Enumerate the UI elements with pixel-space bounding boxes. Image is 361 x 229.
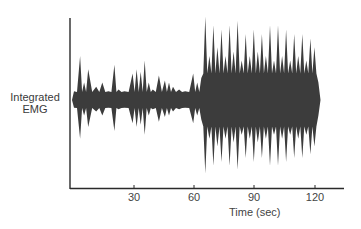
y-axis-label-line1: Integrated bbox=[2, 91, 68, 103]
x-tick-90: 90 bbox=[248, 191, 260, 203]
y-axis-label-line2: EMG bbox=[2, 103, 68, 115]
y-axis-label: Integrated EMG bbox=[2, 91, 68, 115]
tick-marks bbox=[134, 185, 315, 188]
x-tick-60: 60 bbox=[188, 191, 200, 203]
x-tick-30: 30 bbox=[128, 191, 140, 203]
x-axis-label: Time (sec) bbox=[229, 206, 281, 218]
x-tick-120: 120 bbox=[306, 191, 324, 203]
emg-signal bbox=[72, 16, 321, 173]
